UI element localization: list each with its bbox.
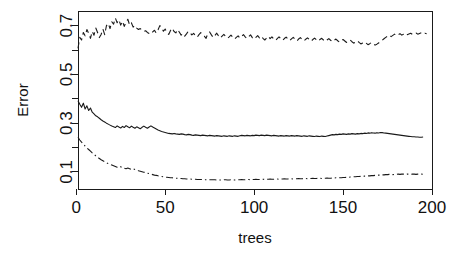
x-axis-title: trees	[238, 229, 271, 246]
y-tick-label: 0.3	[58, 111, 77, 135]
x-tick-label: 0	[71, 198, 80, 217]
chart-figure: 0.10.30.50.7 050100150200 Error trees	[0, 0, 452, 263]
y-tick-label: 0.1	[58, 160, 77, 184]
x-tick-label: 150	[329, 198, 357, 217]
y-axis-ticks	[72, 26, 78, 172]
x-tick-label: 50	[156, 198, 175, 217]
x-axis-tick-labels: 050100150200	[71, 198, 446, 217]
y-axis-title: Error	[14, 83, 31, 116]
plot-frame	[78, 11, 432, 189]
series-line-oob-error	[78, 101, 423, 138]
series-lines	[78, 18, 427, 180]
chart-canvas: 0.10.30.50.7 050100150200 Error trees	[0, 0, 452, 263]
x-axis-ticks	[76, 189, 432, 195]
series-line-class-2-error	[78, 18, 427, 48]
x-tick-label: 100	[240, 198, 268, 217]
series-line-class-1-error	[78, 137, 425, 180]
x-tick-label: 200	[418, 198, 446, 217]
y-tick-label: 0.5	[58, 63, 77, 87]
y-tick-label: 0.7	[58, 14, 77, 38]
